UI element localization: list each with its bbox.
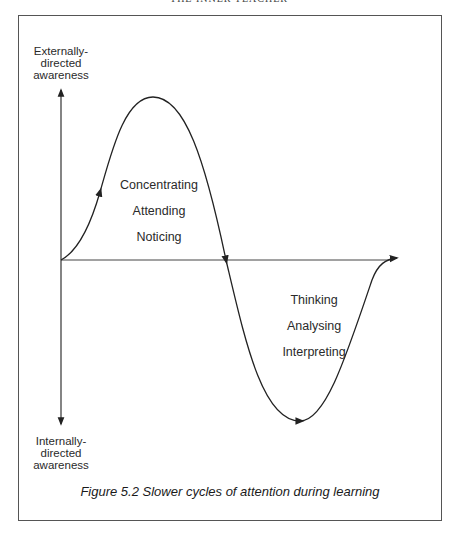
internally-directed-awareness-label: Internally- directed awareness (20, 435, 102, 471)
figure-caption: Figure 5.2 Slower cycles of attention du… (18, 484, 442, 499)
phase-label-attending: Attending (104, 204, 214, 218)
phase-label-thinking: Thinking (262, 293, 366, 307)
phase-label-analysing: Analysing (262, 319, 366, 333)
attention-curve-fall (226, 260, 300, 421)
attention-curve-return (300, 258, 397, 421)
externally-directed-awareness-label: Externally- directed awareness (20, 45, 102, 81)
phase-label-noticing: Noticing (104, 230, 214, 244)
attention-curve-rise (61, 192, 100, 260)
phase-label-interpreting: Interpreting (262, 345, 366, 359)
phase-label-concentrating: Concentrating (104, 178, 214, 192)
